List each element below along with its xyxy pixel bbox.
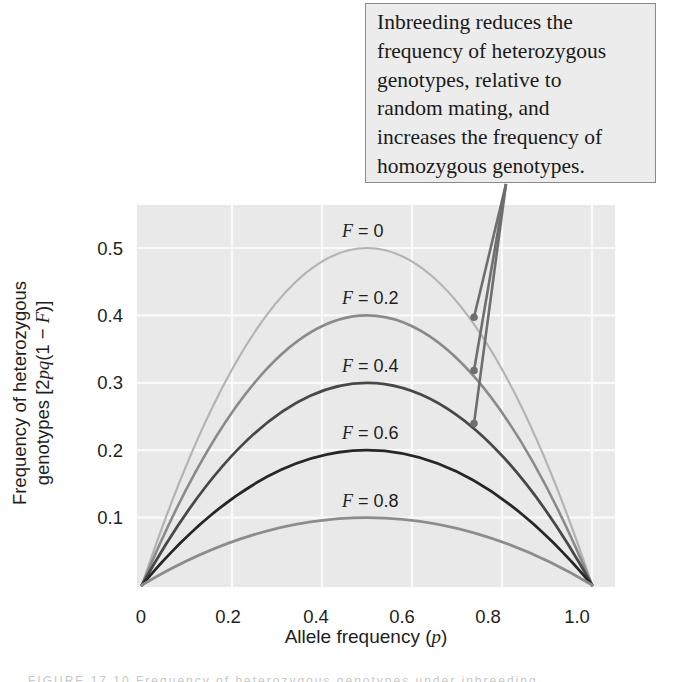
curve-label: F = 0.8 — [341, 491, 399, 511]
pointer-dot — [470, 367, 478, 375]
callout-line: homozygous genotypes. — [377, 152, 655, 181]
y-axis-label-line1: Frequency of heterozygous — [9, 281, 30, 505]
plot-area — [137, 205, 615, 587]
y-tick-label: 0.1 — [97, 507, 123, 528]
x-tick-label: 0 — [136, 606, 146, 627]
x-tick-label: 0.2 — [215, 606, 241, 627]
y-tick-label: 0.2 — [97, 440, 123, 461]
callout-line: increases the frequency of — [377, 123, 655, 152]
callout-line: frequency of heterozygous — [377, 37, 655, 66]
x-tick-label: 0.6 — [389, 606, 415, 627]
curve-label: F = 0.6 — [341, 423, 399, 443]
y-tick-label: 0.5 — [97, 238, 123, 259]
x-tick-label: 0.8 — [475, 606, 501, 627]
callout-box: Inbreeding reduces the frequency of hete… — [365, 3, 656, 183]
figure-caption: FIGURE 17.10 Frequency of heterozygous g… — [28, 671, 668, 682]
x-tick-label: 0.4 — [303, 606, 329, 627]
y-axis-label-line2: genotypes [2pq(1 − F)] — [32, 301, 53, 486]
curve-label: F = 0 — [341, 221, 384, 241]
callout-line: random mating, and — [377, 94, 655, 123]
callout-line: genotypes, relative to — [377, 66, 655, 95]
curve-label: F = 0.4 — [341, 356, 399, 376]
callout-line: Inbreeding reduces the — [377, 8, 655, 37]
pointer-dot — [470, 314, 478, 322]
x-axis-label: Allele frequency (p) — [285, 626, 448, 647]
y-tick-label: 0.3 — [97, 372, 123, 393]
pointer-dot — [470, 420, 478, 428]
x-axis-ticks: 00.20.40.60.81.0 — [136, 606, 590, 627]
y-axis-ticks: 0.10.20.30.40.5 — [97, 238, 123, 529]
curve-label: F = 0.2 — [341, 288, 399, 308]
x-tick-label: 1.0 — [564, 606, 590, 627]
chart: F = 0F = 0.2F = 0.4F = 0.6F = 0.8 00.20.… — [0, 0, 684, 682]
y-axis-label: Frequency of heterozygous genotypes [2pq… — [9, 281, 53, 505]
y-tick-label: 0.4 — [97, 305, 123, 326]
